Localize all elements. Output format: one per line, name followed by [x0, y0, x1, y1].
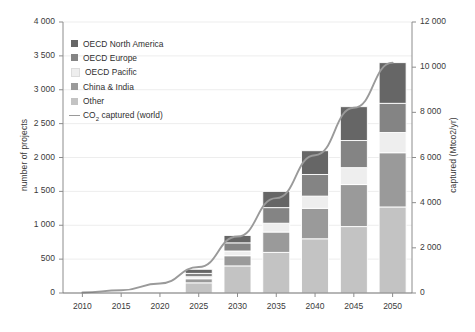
bar-segment [379, 207, 406, 293]
bar-segment [379, 153, 406, 207]
bar-segment [224, 256, 251, 266]
legend-item[interactable]: China & India [71, 81, 163, 92]
bar-segment [302, 151, 329, 175]
bar-segment [340, 185, 367, 227]
legend-item[interactable]: Other [71, 96, 163, 107]
bar-segment [379, 63, 406, 104]
bar-segment [379, 103, 406, 132]
bar-segment [379, 132, 406, 152]
bar-segment [185, 283, 212, 293]
bar-segment [263, 223, 290, 232]
bar-segment [302, 208, 329, 238]
bar-segment [224, 243, 251, 251]
bar-segment [185, 273, 212, 276]
bar-segment [185, 269, 212, 273]
legend-swatch [71, 40, 78, 47]
bar-segment [185, 279, 212, 283]
legend-swatch [71, 68, 80, 77]
chart-legend: OECD North AmericaOECD EuropeOECD Pacifi… [71, 38, 163, 121]
bar-segment [302, 174, 329, 196]
bar-segment [340, 168, 367, 185]
legend-label: OECD Pacific [85, 67, 137, 77]
legend-item[interactable]: CO2 captured (world) [71, 110, 163, 121]
bar-segment [263, 232, 290, 252]
bar-segment [340, 141, 367, 168]
bar-segment [302, 239, 329, 293]
legend-label: CO2 captured (world) [83, 110, 163, 122]
legend-label: China & India [83, 82, 134, 92]
legend-item[interactable]: OECD Pacific [71, 67, 163, 78]
legend-label: Other [83, 96, 104, 106]
bar-segment [263, 208, 290, 224]
legend-swatch [71, 83, 78, 90]
legend-item[interactable]: OECD Europe [71, 52, 163, 63]
bar-segment [340, 227, 367, 293]
legend-swatch [71, 98, 78, 105]
legend-item[interactable]: OECD North America [71, 38, 163, 49]
legend-line-marker [69, 115, 80, 116]
bar-segment [224, 251, 251, 256]
bar-segment [263, 252, 290, 293]
chart-figure: number of projects captured (Mtco2/yr) 0… [0, 0, 475, 332]
legend-swatch [71, 54, 78, 61]
legend-label: OECD Europe [83, 53, 137, 63]
legend-label: OECD North America [83, 39, 163, 49]
bar-segment [302, 196, 329, 208]
bar-segment [224, 266, 251, 293]
